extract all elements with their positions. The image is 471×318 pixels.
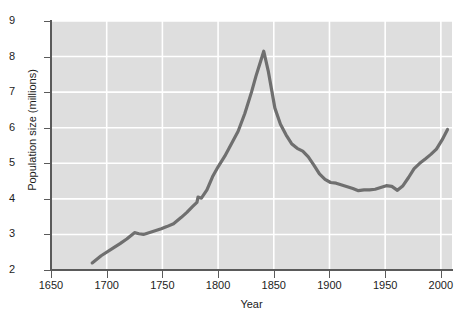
y-tick-label: 6 — [0, 122, 15, 133]
y-tick-mark — [44, 199, 51, 200]
x-tick-mark — [274, 271, 275, 278]
horizontal-gridlines — [51, 21, 452, 234]
population-line-series — [92, 51, 447, 263]
population-line-chart: 23456789 1650170017501800185019001950200… — [0, 0, 471, 318]
x-tick-mark — [441, 271, 442, 278]
y-tick-label: 2 — [0, 264, 15, 275]
x-tick-label: 1900 — [309, 280, 349, 291]
x-tick-mark — [51, 271, 52, 278]
plot-svg — [51, 21, 452, 270]
y-tick-mark — [44, 21, 51, 22]
y-tick-label: 9 — [0, 15, 15, 26]
vertical-gridlines — [107, 21, 441, 270]
x-tick-label: 1800 — [198, 280, 238, 291]
x-tick-label: 1950 — [365, 280, 405, 291]
y-tick-mark — [44, 270, 51, 271]
x-tick-mark — [385, 271, 386, 278]
x-tick-mark — [107, 271, 108, 278]
y-tick-mark — [44, 92, 51, 93]
x-tick-mark — [329, 271, 330, 278]
y-tick-label: 4 — [0, 193, 15, 204]
x-tick-mark — [162, 271, 163, 278]
x-tick-label: 1850 — [254, 280, 294, 291]
y-tick-mark — [44, 234, 51, 235]
x-tick-mark — [218, 271, 219, 278]
y-tick-label: 3 — [0, 228, 15, 239]
y-axis-title: Population size (millions) — [26, 40, 38, 220]
plot-area — [51, 21, 452, 270]
y-tick-label: 7 — [0, 86, 15, 97]
y-tick-mark — [44, 163, 51, 164]
y-tick-label: 5 — [0, 157, 15, 168]
y-axis-line — [50, 20, 52, 271]
y-tick-mark — [44, 57, 51, 58]
y-tick-label: 8 — [0, 51, 15, 62]
x-axis-line — [50, 269, 453, 271]
x-tick-label: 1700 — [87, 280, 127, 291]
x-tick-label: 1750 — [142, 280, 182, 291]
x-tick-label: 2000 — [421, 280, 461, 291]
y-tick-mark — [44, 128, 51, 129]
x-axis-title: Year — [51, 298, 452, 310]
x-tick-label: 1650 — [31, 280, 71, 291]
